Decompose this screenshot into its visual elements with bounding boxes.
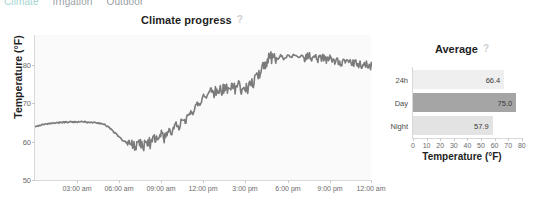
- bar-category-night: Night: [390, 121, 408, 130]
- bar-x-tick-mark: [413, 138, 414, 141]
- bar-x-tick-mark: [522, 138, 523, 141]
- bar-chart-x-axis-label: Temperature (°F): [386, 151, 538, 162]
- x-tick-label-0300pm: 3:00 pm: [232, 185, 257, 192]
- climate-dashboard: Climate Irrigation Outdoor Climate progr…: [0, 0, 538, 216]
- y-tick-label-70: 70: [23, 99, 31, 108]
- x-tick-label-0900am: 09:00 am: [146, 185, 175, 192]
- line-chart-title: Climate progress?: [0, 14, 384, 26]
- tab-climate[interactable]: Climate: [4, 0, 39, 8]
- help-icon[interactable]: ?: [483, 43, 489, 54]
- tab-bar: Climate Irrigation Outdoor: [0, 0, 538, 12]
- bar-x-tick-70: 70: [504, 142, 512, 149]
- bar-row-night[interactable]: Night 57.9: [413, 116, 522, 135]
- bar-value-day: 75.0: [498, 98, 513, 107]
- bar-rect-night[interactable]: 57.9: [413, 116, 493, 135]
- x-tick-label-0600am: 06:00 am: [104, 185, 133, 192]
- bar-row-day[interactable]: Day 75.0: [413, 93, 522, 112]
- x-tick-label-0600pm: 6:00 pm: [275, 185, 300, 192]
- bar-x-tick-50: 50: [477, 142, 485, 149]
- bar-x-tick-30: 30: [450, 142, 458, 149]
- x-tick-label-0900pm: 9:00 pm: [317, 185, 342, 192]
- bar-chart-title: Average?: [386, 43, 538, 55]
- bar-value-24h: 66.4: [486, 75, 501, 84]
- bar-x-tick-80: 80: [518, 142, 526, 149]
- tab-outdoor[interactable]: Outdoor: [107, 0, 144, 8]
- bar-x-tick-60: 60: [491, 142, 499, 149]
- bar-x-tick-mark: [481, 138, 482, 141]
- y-tick-label-80: 80: [23, 61, 31, 70]
- chart-card: Climate progress? Temperature (°F) 50 60…: [0, 8, 538, 216]
- bar-x-tick-10: 10: [423, 142, 431, 149]
- bar-category-24h: 24h: [395, 75, 408, 84]
- x-tick-label-1200pm: 12:00 pm: [188, 185, 217, 192]
- bar-row-24h[interactable]: 24h 66.4: [413, 70, 522, 89]
- help-icon[interactable]: ?: [237, 14, 243, 25]
- line-chart-plot-area: 50 60 70 80 03:00 am 06:00 am 09:00 am 1…: [34, 35, 371, 181]
- bar-category-day: Day: [395, 98, 408, 107]
- temperature-line-series: [35, 35, 372, 181]
- bar-chart-plot-area: 24h 66.4 Day 75.0 Night 57.9: [412, 67, 522, 139]
- bar-x-tick-0: 0: [411, 142, 415, 149]
- x-tick-label-1200am: 12:00 am: [356, 185, 385, 192]
- bar-chart-title-text: Average: [435, 43, 478, 55]
- bar-x-tick-mark: [467, 138, 468, 141]
- y-tick-label-50: 50: [23, 176, 31, 185]
- line-chart-title-text: Climate progress: [141, 14, 232, 26]
- bar-x-tick-mark: [440, 138, 441, 141]
- bar-x-tick-mark: [495, 138, 496, 141]
- y-tick-label-60: 60: [23, 138, 31, 147]
- bar-rect-day[interactable]: 75.0: [413, 93, 516, 112]
- bar-x-tick-mark: [427, 138, 428, 141]
- line-chart-y-axis-label: Temperature (°F): [12, 17, 24, 137]
- bar-rect-24h[interactable]: 66.4: [413, 70, 504, 89]
- bar-value-night: 57.9: [474, 121, 489, 130]
- bar-x-tick-mark: [454, 138, 455, 141]
- bar-x-tick-mark: [508, 138, 509, 141]
- line-chart-panel: Climate progress? Temperature (°F) 50 60…: [0, 9, 384, 216]
- x-tick-label-0300am: 03:00 am: [62, 185, 91, 192]
- tab-irrigation[interactable]: Irrigation: [53, 0, 93, 8]
- bar-x-tick-20: 20: [436, 142, 444, 149]
- average-bar-panel: Average? 24h 66.4 Day 75.0 Night: [386, 9, 538, 216]
- bar-x-tick-40: 40: [463, 142, 471, 149]
